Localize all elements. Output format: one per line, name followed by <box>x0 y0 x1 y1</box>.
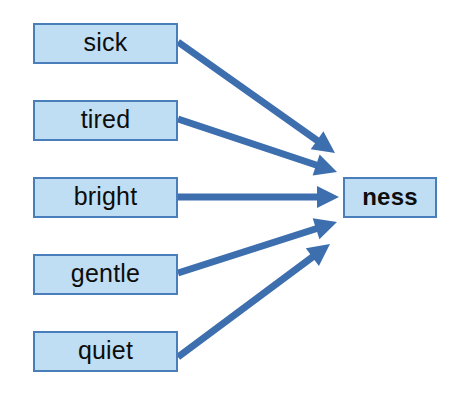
node-label: gentle <box>71 261 140 286</box>
node-box-quiet[interactable]: quiet <box>33 331 178 372</box>
node-box-ness[interactable]: ness <box>343 177 437 218</box>
node-box-bright[interactable]: bright <box>33 177 178 218</box>
arrow-sick-to-ness <box>176 39 335 153</box>
arrow-tired-to-ness <box>177 116 337 176</box>
node-box-sick[interactable]: sick <box>33 23 178 64</box>
node-label: sick <box>84 30 128 55</box>
node-label: bright <box>74 184 138 209</box>
node-box-tired[interactable]: tired <box>33 100 178 141</box>
arrow-quiet-to-ness <box>176 244 330 360</box>
node-label: quiet <box>78 338 133 363</box>
arrow-bright-to-ness <box>178 186 339 208</box>
diagram-canvas: sick tired bright gentle quiet ness <box>0 0 459 404</box>
node-label: ness <box>362 185 418 209</box>
node-box-gentle[interactable]: gentle <box>33 254 178 295</box>
arrow-gentle-to-ness <box>177 218 337 276</box>
node-label: tired <box>81 107 131 132</box>
